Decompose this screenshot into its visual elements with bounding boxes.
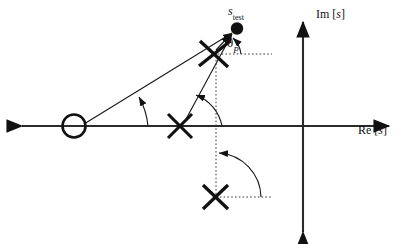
test-point-label-subscript: test <box>233 13 244 22</box>
imaginary-axis-label-suffix: ] <box>341 7 345 21</box>
angle-arcs-group <box>139 38 261 197</box>
plot-canvas <box>0 0 413 244</box>
angle-theta-p-subscript: P <box>233 45 238 55</box>
arc-angle-at-pole-lower <box>219 153 261 197</box>
vector-zero-to-test <box>84 33 232 124</box>
angle-theta-p-label: θP <box>227 36 239 52</box>
vectors-group <box>84 33 232 124</box>
test-point-label: stest <box>228 5 244 21</box>
test-point-marker <box>231 22 243 34</box>
pole-marker-complex-upper <box>199 41 229 67</box>
imaginary-axis-label: Im [s] <box>316 8 345 20</box>
real-axis-label-prefix: Re [ <box>358 123 378 137</box>
real-axis-label-suffix: ] <box>383 123 387 137</box>
arc-angle-at-pole-real <box>196 95 222 126</box>
test-point-label-base: s <box>228 4 233 18</box>
pole-zero-diagram: stest θP Im [s] Re [s] <box>0 0 413 244</box>
imaginary-axis-label-prefix: Im [ <box>316 7 336 21</box>
markers-group <box>63 22 244 209</box>
real-axis-label: Re [s] <box>358 124 387 136</box>
axes-group <box>22 22 389 232</box>
arc-angle-at-zero <box>139 97 148 126</box>
